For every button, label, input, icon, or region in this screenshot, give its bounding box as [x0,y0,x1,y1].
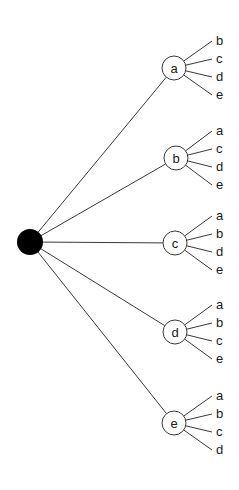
nodes: bcdeaacdebabdecabcedabcde [17,33,224,457]
leaf-label: d [216,442,223,457]
edge-b-to-d [188,161,212,167]
edge-b-to-e [186,165,212,185]
edge-a-to-e [184,75,212,95]
node-a-label: a [170,61,178,76]
edge-e-to-c [186,426,212,432]
leaf-label: c [216,333,223,348]
tree-diagram: bcdeaacdebabdecabcedabcde [0,0,239,490]
node-c-label: c [172,236,179,251]
leaf-label: c [216,424,223,439]
leaf-label: a [216,388,224,403]
leaf-label: e [216,87,223,102]
leaf-label: b [216,406,223,421]
edge-root-to-b [30,164,166,242]
leaf-label: b [216,315,223,330]
edge-e-to-b [186,414,212,420]
leaf-label: c [216,51,223,66]
edge-root-to-a [30,77,166,242]
edge-c-to-a [185,216,212,236]
edge-a-to-b [184,41,212,61]
leaf-label: d [216,159,223,174]
leaf-label: d [216,244,223,259]
edge-a-to-d [186,71,212,77]
edge-e-to-d [184,430,212,450]
edge-root-to-e [30,242,167,414]
edge-d-to-a [185,305,212,325]
leaf-label: e [216,262,223,277]
leaf-label: e [216,177,223,192]
edge-d-to-c [187,335,212,341]
edge-b-to-a [186,131,212,151]
edge-c-to-d [187,246,212,252]
leaf-label: d [216,69,223,84]
leaf-label: b [216,33,223,48]
edge-b-to-c [188,149,212,155]
root-node [17,229,43,255]
edge-root-to-c [30,242,163,243]
node-d-label: d [171,325,178,340]
edge-c-to-b [187,234,212,240]
node-b-label: b [172,151,179,166]
edge-d-to-e [185,339,212,359]
leaf-label: a [216,123,224,138]
node-e-label: e [170,416,177,431]
edge-a-to-c [186,59,212,65]
leaf-label: a [216,297,224,312]
leaf-label: a [216,208,224,223]
edge-e-to-a [184,396,212,416]
leaf-label: e [216,351,223,366]
leaf-label: c [216,141,223,156]
edge-root-to-d [30,242,165,326]
edge-c-to-e [185,250,212,270]
edge-d-to-b [187,323,212,329]
leaf-label: b [216,226,223,241]
